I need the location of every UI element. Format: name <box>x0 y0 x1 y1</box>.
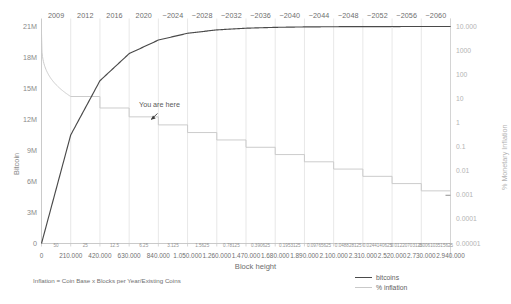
bitcoin-tick-5: 15M <box>8 84 37 93</box>
bitcoin-tick-2: 6M <box>8 177 37 186</box>
legend-item-inflation: % inflation <box>355 282 407 292</box>
bitcoin-tick-1: 3M <box>8 208 37 217</box>
inflation-tick-6: 0.01 <box>456 167 469 174</box>
inflation-tick-5: 0.1 <box>456 143 465 150</box>
block-height-tick-14: 2.940.000 <box>428 252 474 259</box>
coin-base-tick-13: 0.006103515625 <box>415 243 457 248</box>
bitcoin-tick-7: 21M <box>8 22 37 31</box>
inflation-axis-title: % Monetary Inflation <box>500 124 509 190</box>
legend-swatch-inflation <box>355 287 372 288</box>
legend-swatch-bitcoins <box>355 277 372 278</box>
inflation-tick-9: 0.00001 <box>456 240 481 247</box>
bitcoin-tick-6: 18M <box>8 53 37 62</box>
inflation-tick-1: 1000 <box>456 47 471 54</box>
bitcoin-tick-4: 12M <box>8 115 37 124</box>
you-are-here-label: You are here <box>139 100 180 109</box>
year-tick-13: ~2060 <box>416 11 456 20</box>
bitcoin-tick-0: 0 <box>8 239 37 248</box>
inflation-tick-7: 0.001 <box>456 191 473 198</box>
inflation-tick-0: 10.000 <box>456 23 477 30</box>
bitcoin-axis-title: Bitcoin <box>12 153 21 175</box>
inflation-tick-4: 1 <box>456 119 460 126</box>
legend-item-bitcoins: bitcoins <box>355 272 407 282</box>
inflation-tick-3: 10 <box>456 95 464 102</box>
block-height-axis-title: Block height <box>0 262 511 271</box>
legend-label-bitcoins: bitcoins <box>376 274 399 281</box>
inflation-tick-8: 0.0001 <box>456 215 477 222</box>
inflation-formula-note: Inflation = Coin Base x Blocks per Year/… <box>33 277 181 284</box>
gridlines-group <box>42 19 451 244</box>
chart-legend: bitcoins % inflation <box>355 272 407 292</box>
inflation-tick-2: 100 <box>456 71 467 78</box>
legend-label-inflation: % inflation <box>376 284 407 291</box>
chart-root: 2009201220162020~2024~2028~2032~2036~204… <box>0 0 511 304</box>
